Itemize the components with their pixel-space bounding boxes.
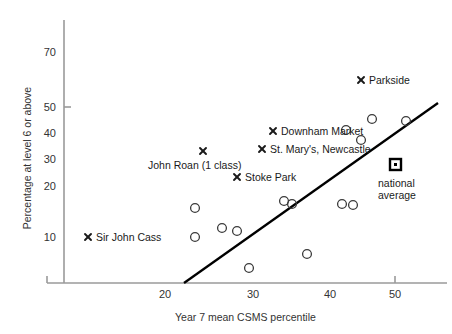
data-point-circle <box>338 200 347 209</box>
x-axis-title: Year 7 mean CSMS percentile <box>175 311 316 323</box>
x-tick-label-20: 20 <box>150 288 180 300</box>
point-label-downham-market: Downham Market <box>281 125 363 137</box>
y-tick-label-40: 40 <box>30 127 56 139</box>
x-tick-label-50: 50 <box>380 288 410 300</box>
square-marker-national-average <box>390 159 401 170</box>
y-tick-label-20: 20 <box>30 180 56 192</box>
data-point-circle <box>349 201 358 210</box>
point-label-st-marys: St. Mary's, Newcastle <box>270 143 371 155</box>
data-point-circle <box>191 204 200 213</box>
scatter-chart: 70 50 40 30 20 10 20 30 40 50 Percentage… <box>0 0 452 334</box>
national-average-line2: average <box>378 189 416 201</box>
x-marker-downham-market <box>270 128 276 134</box>
y-tick-label-50: 50 <box>30 101 56 113</box>
x-marker-john-roan <box>200 148 206 154</box>
y-axis-title-wrap: Percentage at level 6 or above <box>21 68 33 248</box>
data-point-circle <box>191 233 200 242</box>
x-marker-st-marys <box>259 146 265 152</box>
annotation-national-average: national average <box>378 177 416 201</box>
national-average-line1: national <box>378 177 415 189</box>
data-point-circle <box>233 227 242 236</box>
data-point-circle <box>402 117 411 126</box>
data-point-circle <box>245 264 254 273</box>
point-label-parkside: Parkside <box>369 74 410 86</box>
x-tick-label-30: 30 <box>238 288 268 300</box>
y-tick-label-70: 70 <box>30 46 56 58</box>
point-label-sir-john-cass: Sir John Cass <box>96 231 161 243</box>
x-marker-sir-john-cass <box>85 234 91 240</box>
y-tick-label-10: 10 <box>30 231 56 243</box>
x-marker-parkside <box>358 77 364 83</box>
y-tick-label-30: 30 <box>30 153 56 165</box>
data-point-circle <box>303 250 312 259</box>
data-point-circle <box>368 115 377 124</box>
data-point-circle <box>218 224 227 233</box>
x-marker-stoke-park <box>234 174 240 180</box>
x-tick-label-40: 40 <box>315 288 345 300</box>
point-label-stoke-park: Stoke Park <box>245 171 296 183</box>
point-label-john-roan: John Roan (1 class) <box>148 159 241 171</box>
y-axis-title: Percentage at level 6 or above <box>21 68 33 248</box>
